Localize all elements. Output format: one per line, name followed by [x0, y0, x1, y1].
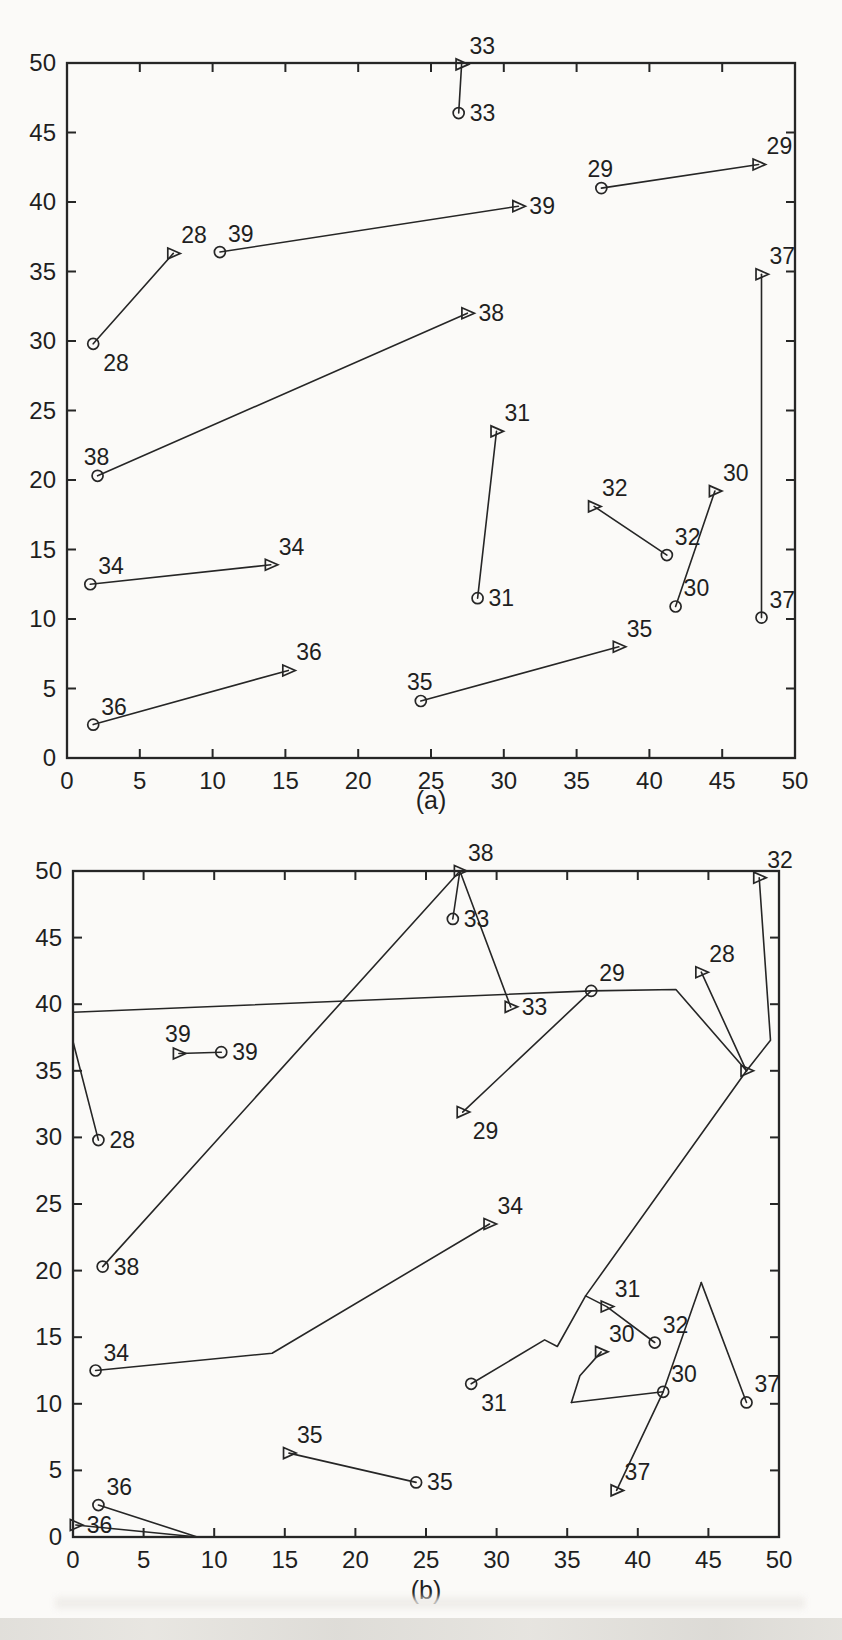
plot-b: 0510152025303540455005101520253035404550…: [35, 840, 793, 1573]
point-label: 29: [599, 960, 625, 986]
assignment-line: [93, 253, 173, 343]
y-tick-label: 0: [49, 1523, 62, 1550]
point-label: 29: [473, 1118, 499, 1144]
x-tick-label: 10: [199, 767, 226, 794]
assignment-line: [478, 431, 497, 598]
x-tick-label: 20: [345, 767, 372, 794]
figure-page: 0510152025303540455005101520253035404550…: [0, 0, 842, 1640]
y-tick-label: 15: [35, 1323, 62, 1350]
x-tick-label: 5: [133, 767, 146, 794]
point-label: 32: [767, 847, 793, 873]
x-tick-label: 40: [636, 767, 663, 794]
point-label: 34: [498, 1193, 524, 1219]
x-tick-label: 0: [66, 1546, 79, 1573]
assignment-line: [421, 647, 619, 701]
point-label: 39: [529, 193, 555, 219]
point-label: 31: [615, 1276, 641, 1302]
assignment-line: [220, 206, 519, 252]
point-label: 37: [625, 1459, 651, 1485]
point-label: 28: [109, 1127, 135, 1153]
figure-svg: 0510152025303540455005101520253035404550…: [0, 0, 842, 1640]
caption-a: (a): [416, 786, 447, 814]
x-tick-label: 20: [342, 1546, 369, 1573]
tour-path: [586, 1071, 747, 1343]
tour-path: [571, 1392, 663, 1403]
point-label: 34: [104, 1340, 130, 1366]
point-label: 34: [279, 534, 305, 560]
y-tick-label: 5: [49, 1456, 62, 1483]
y-tick-label: 35: [29, 258, 56, 285]
point-label: 39: [232, 1039, 258, 1065]
x-tick-label: 30: [483, 1546, 510, 1573]
point-label: 29: [767, 133, 793, 159]
point-label: 39: [165, 1021, 191, 1047]
assignment-line: [594, 506, 667, 555]
point-label: 34: [98, 553, 124, 579]
x-tick-label: 50: [782, 767, 809, 794]
tour-path: [460, 871, 511, 1007]
point-label: 38: [114, 1254, 140, 1280]
point-label: 37: [755, 1371, 781, 1397]
point-label: 36: [106, 1474, 132, 1500]
x-tick-label: 50: [766, 1546, 793, 1573]
y-tick-label: 25: [29, 397, 56, 424]
point-label: 35: [627, 616, 653, 642]
point-label: 38: [468, 840, 494, 866]
tour-path: [701, 972, 746, 1071]
point-label: 38: [478, 300, 504, 326]
point-label: 33: [464, 906, 490, 932]
point-label: 33: [470, 33, 496, 59]
tour-path: [471, 1296, 585, 1384]
point-label: 31: [505, 400, 531, 426]
y-tick-label: 35: [35, 1057, 62, 1084]
tour-path: [701, 1283, 746, 1403]
y-tick-label: 20: [29, 466, 56, 493]
tour-path: [73, 1042, 98, 1141]
point-label: 32: [602, 475, 628, 501]
x-tick-label: 40: [624, 1546, 651, 1573]
x-tick-label: 45: [695, 1546, 722, 1573]
x-tick-label: 35: [563, 767, 590, 794]
scan-artifact-strip: [0, 1618, 842, 1640]
assignment-line: [459, 64, 462, 113]
y-tick-label: 10: [29, 605, 56, 632]
axes-box: [73, 871, 779, 1537]
point-label: 35: [297, 1422, 323, 1448]
assignment-line: [601, 165, 758, 189]
point-label: 36: [101, 694, 127, 720]
axes-box: [67, 63, 795, 758]
x-tick-label: 10: [201, 1546, 228, 1573]
point-label: 37: [770, 587, 796, 613]
y-tick-label: 40: [35, 990, 62, 1017]
y-tick-label: 30: [29, 327, 56, 354]
point-label: 28: [181, 222, 207, 248]
point-label: 32: [675, 524, 701, 550]
point-label: 38: [84, 444, 110, 470]
y-tick-label: 20: [35, 1257, 62, 1284]
plot-a: 0510152025303540455005101520253035404550…: [29, 33, 808, 794]
point-label: 36: [296, 639, 322, 665]
y-tick-label: 5: [43, 675, 56, 702]
tour-path: [103, 871, 460, 1267]
y-tick-label: 0: [43, 744, 56, 771]
y-tick-label: 45: [35, 924, 62, 951]
y-tick-label: 15: [29, 536, 56, 563]
point-label: 33: [522, 994, 548, 1020]
y-tick-label: 25: [35, 1190, 62, 1217]
point-label: 30: [684, 575, 710, 601]
y-tick-label: 10: [35, 1390, 62, 1417]
tour-path: [571, 1352, 601, 1403]
x-tick-label: 30: [490, 767, 517, 794]
x-tick-label: 0: [60, 767, 73, 794]
point-label: 28: [103, 350, 129, 376]
tour-path: [289, 1453, 416, 1482]
x-tick-label: 35: [554, 1546, 581, 1573]
point-label: 35: [407, 669, 433, 695]
assignment-line: [98, 313, 468, 476]
point-label: 31: [481, 1390, 507, 1416]
point-label: 39: [228, 221, 254, 247]
point-label: 30: [609, 1321, 635, 1347]
point-label: 28: [709, 941, 735, 967]
x-tick-label: 15: [272, 767, 299, 794]
point-label: 37: [770, 243, 796, 269]
